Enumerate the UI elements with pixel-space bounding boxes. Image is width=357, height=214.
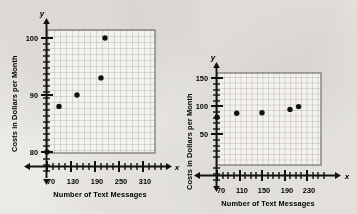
data-point: [287, 107, 292, 112]
y-tick-label: 100: [196, 102, 208, 111]
y-tick-label: 90: [30, 91, 38, 100]
data-point: [296, 104, 301, 109]
x-tick-label: 130: [67, 177, 79, 186]
left-chart-y-axis-title: Costs in Dollars per Month: [10, 55, 19, 152]
data-point: [98, 75, 103, 80]
right-chart-y-tick-labels: 150 100 50: [196, 74, 208, 139]
x-tick-label: 110: [236, 186, 248, 195]
x-tick-label: 230: [303, 186, 315, 195]
x-tick-label: 150: [258, 186, 270, 195]
right-chart-y-axis-symbol: y: [210, 53, 216, 62]
data-point: [214, 115, 219, 120]
right-chart: y 150 100 50: [180, 0, 357, 214]
x-tick-label: 70: [47, 177, 55, 186]
y-tick-label: 150: [196, 74, 208, 83]
left-chart-x-axis: x: [24, 161, 180, 172]
y-tick-label: 100: [26, 34, 38, 43]
data-point: [102, 35, 107, 40]
right-chart-x-tick-labels: 70 110 150 190 230: [217, 186, 315, 195]
x-tick-label: 190: [91, 177, 103, 186]
x-tick-label: 310: [139, 177, 151, 186]
left-chart-x-axis-symbol: x: [174, 163, 180, 172]
right-chart-y-axis-title: Costs in Dollars per Month: [185, 93, 194, 190]
left-chart: y 100 90 80: [0, 0, 180, 214]
data-point: [234, 111, 239, 116]
left-chart-y-axis-symbol: y: [39, 9, 45, 18]
left-chart-y-tick-labels: 100 90 80: [26, 34, 38, 157]
x-tick-label: 70: [217, 186, 225, 195]
right-chart-x-axis: x: [194, 170, 350, 181]
right-chart-x-axis-title: Number of Text Messages: [221, 199, 314, 208]
data-point: [56, 104, 61, 109]
y-tick-label: 80: [30, 148, 38, 157]
data-point: [44, 149, 49, 154]
x-tick-label: 250: [115, 177, 127, 186]
left-chart-x-axis-title: Number of Text Messages: [53, 190, 146, 199]
right-chart-plot-area: [217, 73, 321, 165]
left-chart-plot-area: [47, 30, 155, 153]
x-tick-label: 190: [281, 186, 293, 195]
data-point: [259, 110, 264, 115]
data-point: [74, 92, 79, 97]
right-chart-x-axis-symbol: x: [344, 172, 350, 181]
left-chart-x-tick-labels: 70 130 190 250 310: [47, 177, 151, 186]
y-tick-label: 50: [200, 130, 208, 139]
